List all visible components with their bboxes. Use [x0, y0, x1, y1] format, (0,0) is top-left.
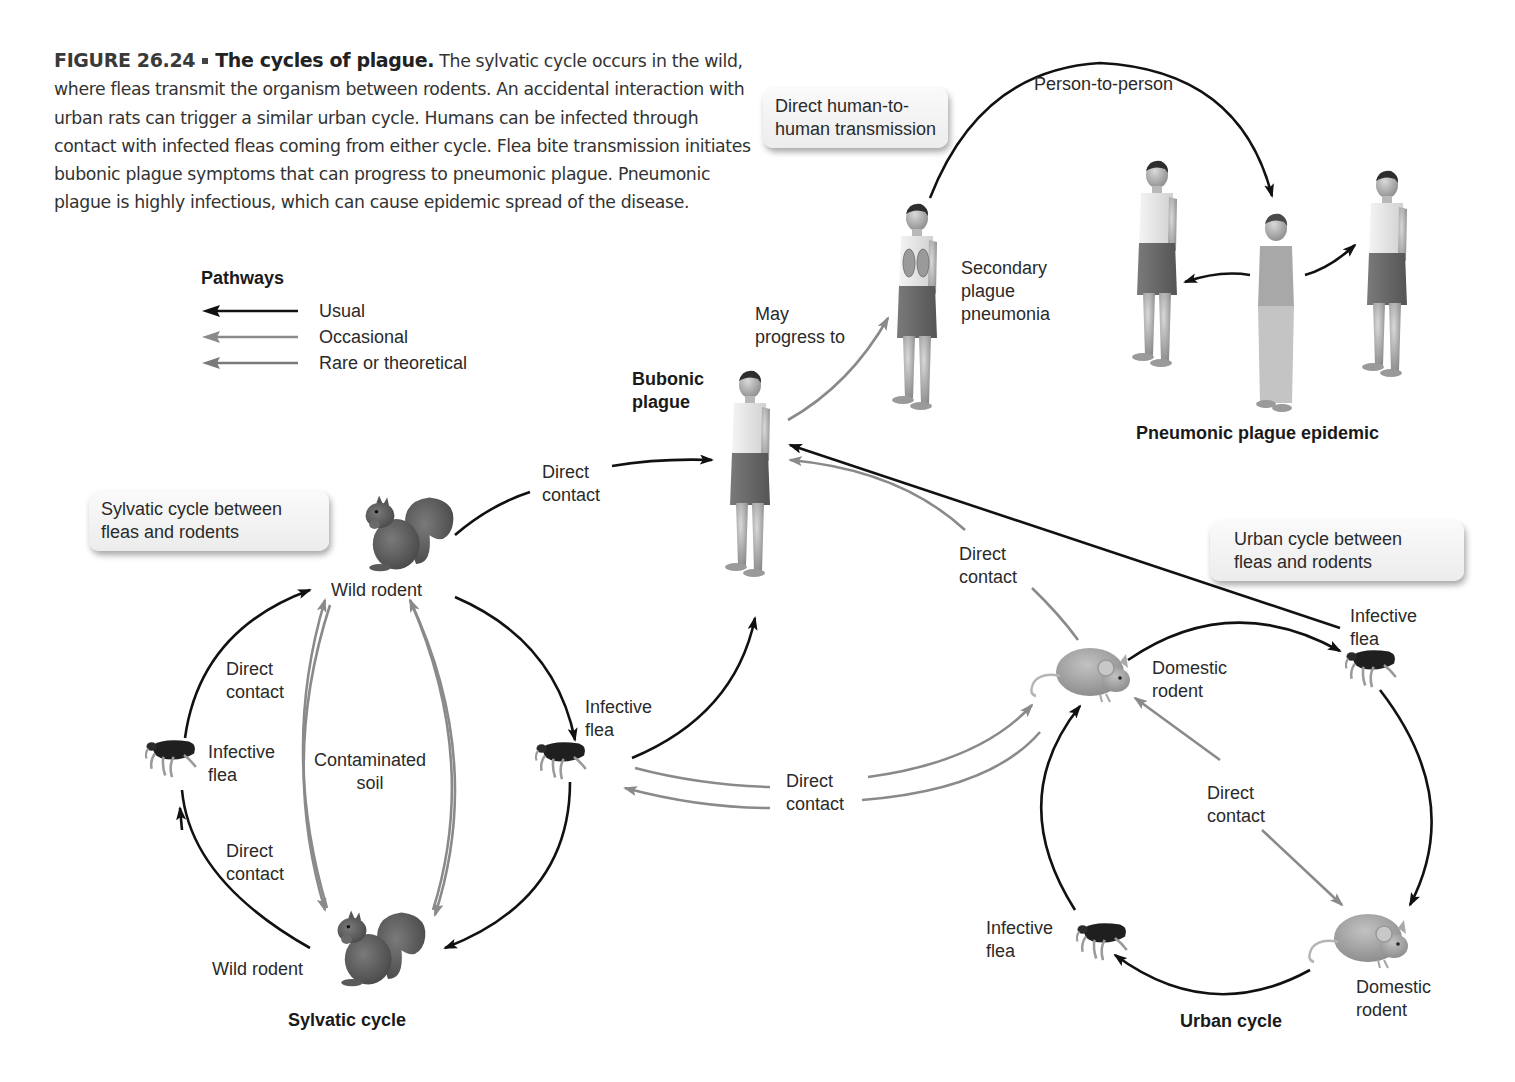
label-infective-flea-sylvatic-left: Infective flea	[208, 741, 275, 787]
label-infective-flea-urban-bottom: Infective flea	[986, 917, 1053, 963]
epidemic-figure-right	[1362, 171, 1407, 377]
label-sylvatic-cycle: Sylvatic cycle	[288, 1009, 406, 1032]
wild-rodent-top-icon	[366, 496, 454, 572]
label-direct-contact-cross-cycle: Direct contact	[786, 770, 844, 816]
label-infective-flea-urban-top: Infective flea	[1350, 605, 1417, 651]
label-bubonic-plague: Bubonic plague	[632, 368, 704, 414]
callout-urban-cycle: Urban cycle between fleas and rodents	[1210, 521, 1464, 581]
secondary-pneumonia-figure	[892, 204, 937, 410]
callout-sylvatic-cycle: Sylvatic cycle between fleas and rodents	[89, 491, 329, 551]
label-direct-contact-urban-human: Direct contact	[959, 543, 1017, 589]
label-domestic-rodent-top: Domestic rodent	[1152, 657, 1227, 703]
label-contaminated-soil: Contaminated soil	[314, 749, 426, 795]
bubonic-patient-figure	[725, 371, 770, 577]
flea-sylvatic-right-icon	[536, 742, 586, 779]
flea-sylvatic-left-icon	[146, 740, 196, 777]
label-may-progress: May progress to	[755, 303, 845, 349]
wild-rodent-bottom-icon	[338, 911, 426, 987]
occasional-pathway-arrows	[303, 318, 1342, 915]
label-infective-flea-sylvatic-right: Infective flea	[585, 696, 652, 742]
label-secondary-pneumonia: Secondary plague pneumonia	[961, 257, 1050, 326]
label-wild-rodent-top: Wild rodent	[331, 579, 422, 602]
label-direct-contact-human: Direct contact	[542, 461, 600, 507]
epidemic-figure-left	[1132, 161, 1177, 367]
label-urban-cycle: Urban cycle	[1180, 1010, 1282, 1033]
callout-human-transmission: Direct human-to- human transmission	[763, 88, 948, 148]
flea-urban-bottom-icon	[1077, 923, 1127, 960]
domestic-rodent-top-icon	[1031, 648, 1130, 702]
label-direct-contact-urban-inner: Direct contact	[1207, 782, 1265, 828]
label-person-to-person: Person-to-person	[1034, 73, 1173, 96]
label-direct-contact-sylvatic-lower: Direct contact	[226, 840, 284, 886]
label-wild-rodent-bottom: Wild rodent	[212, 958, 303, 981]
label-direct-contact-sylvatic-upper: Direct contact	[226, 658, 284, 704]
epidemic-figure-center	[1256, 214, 1294, 412]
flea-urban-top-icon	[1346, 650, 1396, 687]
label-pneumonic-epidemic: Pneumonic plague epidemic	[1136, 422, 1379, 445]
domestic-rodent-bottom-icon	[1309, 914, 1408, 968]
label-domestic-rodent-bottom: Domestic rodent	[1356, 976, 1431, 1022]
